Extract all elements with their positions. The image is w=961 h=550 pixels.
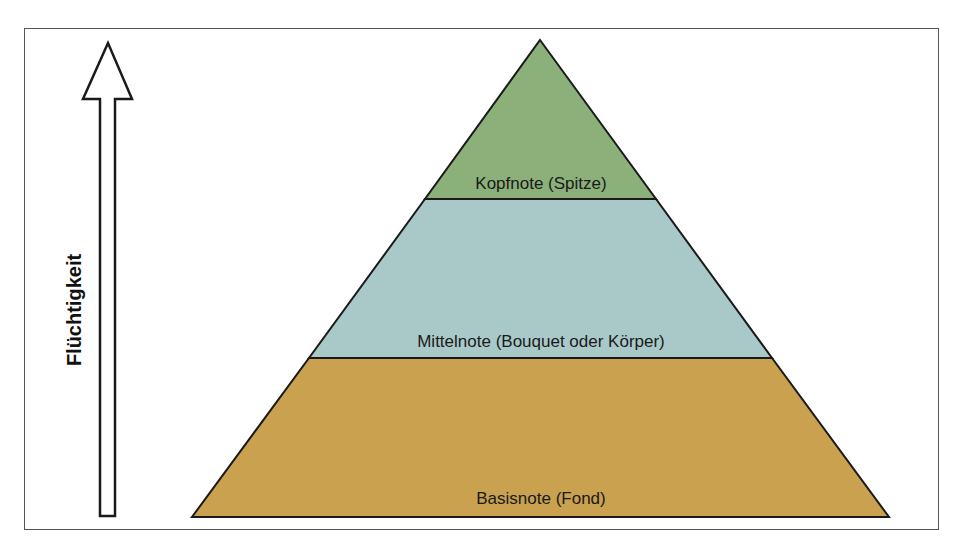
layer-label-middle: Mittelnote (Bouquet oder Körper) [417, 332, 665, 352]
pyramid-diagram [0, 0, 961, 550]
volatility-axis-label: Flüchtigkeit [63, 254, 86, 366]
layer-label-base: Basisnote (Fond) [476, 489, 605, 509]
arrow-up-icon [83, 43, 132, 516]
layer-label-top: Kopfnote (Spitze) [475, 174, 606, 194]
